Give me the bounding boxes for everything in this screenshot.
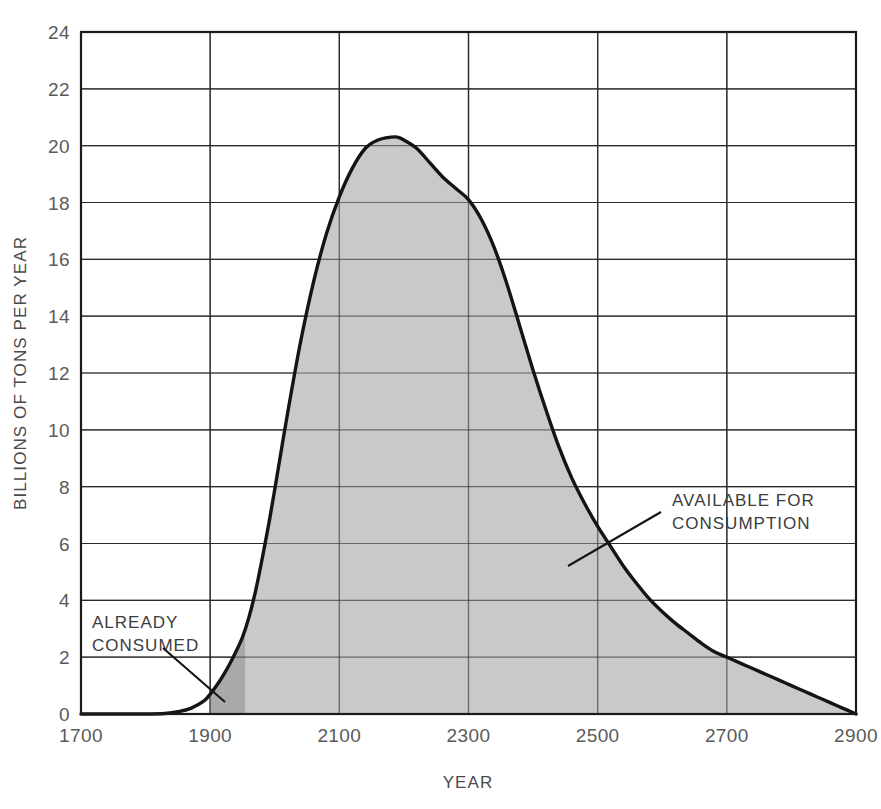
y-tick-label: 22 [48,79,70,100]
x-axis-title: YEAR [443,773,494,792]
y-axis-title: BILLIONS OF TONS PER YEAR [11,236,30,510]
x-tick-label: 1700 [59,725,103,746]
x-tick-label: 2100 [317,725,361,746]
y-tick-label: 18 [48,193,70,214]
y-tick-label: 8 [59,477,70,498]
y-tick-label: 10 [48,420,70,441]
x-tick-label: 2900 [834,725,878,746]
fossil-fuel-consumption-chart: 1700190021002300250027002900 02468101214… [0,0,881,809]
y-tick-label: 20 [48,136,70,157]
annotation-label-line1: AVAILABLE FOR [672,491,815,510]
chart-figure: 1700190021002300250027002900 02468101214… [0,0,881,809]
y-tick-label: 0 [59,704,70,725]
x-tick-label: 2300 [447,725,491,746]
y-tick-label: 6 [59,534,70,555]
y-tick-label: 24 [48,22,70,43]
y-tick-label: 14 [48,306,70,327]
x-tick-label: 2700 [705,725,749,746]
x-tick-label: 1900 [188,725,232,746]
y-tick-label: 16 [48,249,70,270]
annotation-label-line1: ALREADY [92,613,178,632]
y-tick-label: 2 [59,647,70,668]
x-tick-label: 2500 [576,725,620,746]
annotation-label-line2: CONSUMPTION [672,514,811,533]
annotation-label-line2: CONSUMED [92,636,199,655]
y-tick-label: 12 [48,363,70,384]
y-tick-label: 4 [59,590,70,611]
